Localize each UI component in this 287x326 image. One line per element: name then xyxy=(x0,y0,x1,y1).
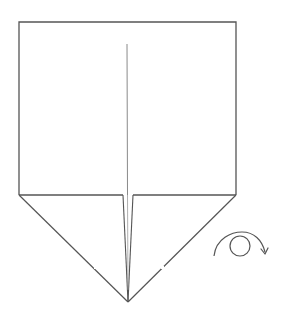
diagram-canvas xyxy=(0,0,287,326)
left-diagonal-gap xyxy=(94,266,97,269)
left-diagonal-edge xyxy=(19,195,128,302)
center-crease-flap-line xyxy=(128,195,129,290)
origami-diagram xyxy=(0,0,287,326)
right-diagonal-edge xyxy=(128,195,236,302)
right-flap-edge xyxy=(128,195,133,302)
right-diagonal-gap xyxy=(161,266,164,269)
turn-over-icon xyxy=(214,232,268,256)
turn-over-circle-icon xyxy=(230,236,250,256)
center-crease-line xyxy=(127,44,128,195)
